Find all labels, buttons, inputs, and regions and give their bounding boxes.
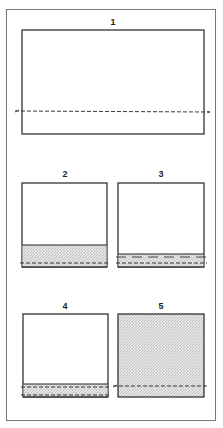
panel-4 bbox=[21, 314, 111, 397]
diagram-canvas bbox=[0, 0, 223, 428]
panel-1 bbox=[15, 30, 210, 134]
panel-3 bbox=[116, 183, 207, 267]
panel-2 bbox=[20, 183, 110, 267]
panel-5 bbox=[113, 314, 208, 397]
